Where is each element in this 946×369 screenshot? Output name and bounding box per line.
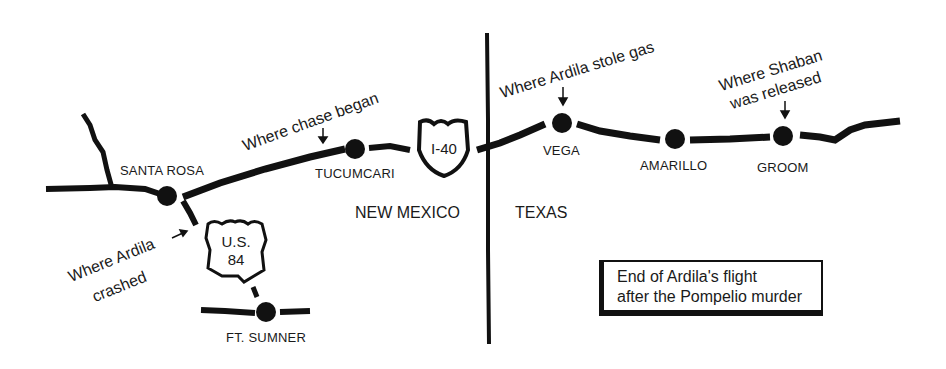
map-legend: End of Ardila's flight after the Pompeli…: [599, 260, 823, 316]
road-east: [800, 121, 900, 140]
state-label-new-mexico: NEW MEXICO: [355, 204, 460, 222]
legend-line2: after the Pompelio murder: [617, 287, 821, 307]
city-dot-tucumcari: [345, 139, 365, 159]
city-label-ft-sumner: FT. SUMNER: [226, 330, 306, 345]
legend-line1: End of Ardila's flight: [617, 267, 821, 287]
city-dot-ft-sumner: [256, 302, 276, 322]
us-route-shield-line2: 84: [212, 251, 260, 268]
road-us84-south: [253, 287, 257, 297]
state-border-line: [487, 33, 489, 344]
interstate-shield-label: I-40: [425, 140, 463, 157]
city-label-amarillo: AMARILLO: [640, 158, 707, 173]
city-dot-groom: [773, 126, 793, 146]
road-north-branch: [83, 114, 112, 188]
city-dot-santa-rosa: [157, 186, 177, 206]
road-us84-north: [183, 201, 196, 225]
city-label-santa-rosa: SANTA ROSA: [120, 163, 204, 178]
city-label-groom: GROOM: [757, 160, 809, 175]
road-i40-mid: [369, 146, 410, 150]
state-label-texas: TEXAS: [515, 204, 567, 222]
road-west: [46, 187, 160, 194]
city-label-vega: VEGA: [543, 143, 580, 158]
city-dot-amarillo: [665, 129, 685, 149]
road-ftsumner-east: [280, 311, 310, 312]
city-label-tucumcari: TUCUMCARI: [315, 166, 395, 181]
road-vega-amarillo: [577, 124, 660, 140]
city-dot-vega: [552, 113, 572, 133]
us-route-shield-line1: U.S.: [212, 233, 260, 250]
road-ftsumner-west: [201, 310, 255, 313]
road-amarillo-groom: [690, 137, 770, 140]
